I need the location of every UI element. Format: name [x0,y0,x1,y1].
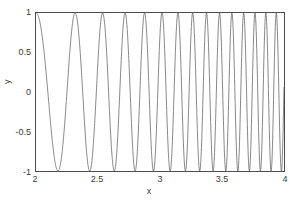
y-axis-ticks: 1 0.5 0 -0.5 -1 [0,0,33,204]
x-tick-label-2: 2.5 [91,174,104,184]
x-tick-label-4: 3.5 [216,174,229,184]
y-tick-label-5: -1 [23,167,31,177]
chirp-curve [36,13,284,171]
x-axis-label: x [0,186,298,196]
x-tick-label-1: 2 [32,174,37,184]
x-tick-label-3: 3 [157,174,162,184]
x-tick-label-5: 4 [282,174,287,184]
y-axis-label: y [2,80,12,85]
y-tick-label-3: 0 [26,87,31,97]
chart-figure: 1 0.5 0 -0.5 -1 y 2 2.5 3 3.5 4 x [0,0,298,204]
y-tick-label-2: 0.5 [18,47,31,57]
y-tick-label-1: 1 [26,7,31,17]
curve-path [36,13,284,171]
y-tick-label-4: -0.5 [15,127,31,137]
plot-area [35,12,285,172]
